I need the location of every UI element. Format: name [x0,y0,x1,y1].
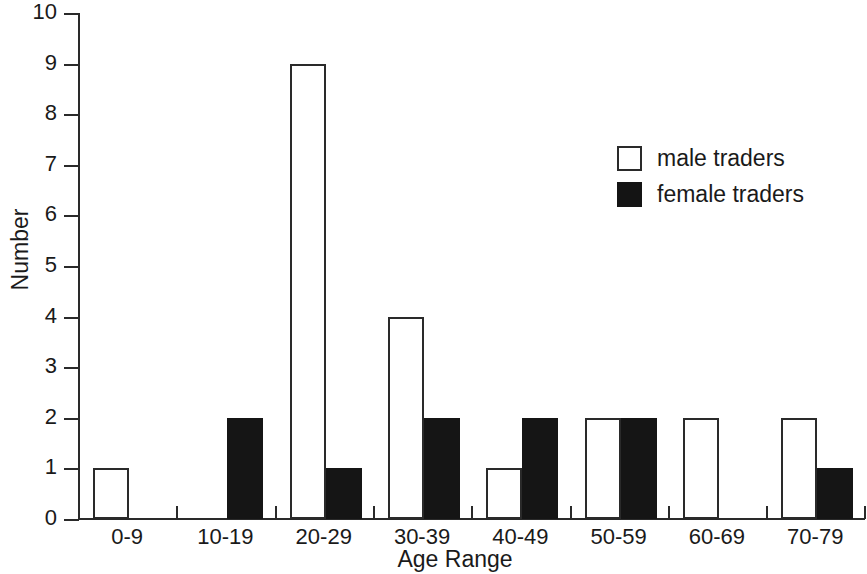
x-axis-tick-label: 0-9 [78,524,176,550]
white-square-swatch-icon [617,146,642,171]
bar [585,418,621,519]
x-axis-tick-label: 60-69 [668,524,766,550]
x-axis-tick-label: 10-19 [176,524,274,550]
black-square-swatch-icon [617,182,642,207]
x-axis-tick-label: 70-79 [766,524,864,550]
x-axis-tick-mark [176,506,178,519]
x-axis-title: Age Range [355,548,555,571]
y-axis-tick-mark [64,215,79,217]
legend-label-male-traders: male traders [657,143,785,173]
bar [522,418,558,519]
bar [388,317,424,519]
bar [486,468,522,519]
bar [290,64,326,519]
bar [93,468,129,519]
y-axis-tick-mark [64,418,79,420]
x-axis-tick-mark [668,506,670,519]
x-axis-tick-mark [275,506,277,519]
y-axis-tick: 3 [0,367,79,369]
y-axis-tick-label: 9 [13,52,57,74]
y-axis-tick: 8 [0,114,79,116]
y-axis-tick: 10 [0,13,79,15]
y-axis-tick: 7 [0,165,79,167]
y-axis-tick-mark [64,367,79,369]
y-axis-tick-label: 1 [13,456,57,478]
y-axis-tick-mark [64,114,79,116]
y-axis-tick-mark [64,317,79,319]
y-axis-tick-mark [64,519,79,521]
y-axis-tick-mark [64,468,79,470]
y-axis-tick-label: 0 [13,507,57,529]
y-axis-tick: 4 [0,317,79,319]
legend-label-female-traders: female traders [657,179,804,209]
x-axis-tick-mark [373,506,375,519]
bar [621,418,657,519]
bar [781,418,817,519]
bar [326,468,362,519]
y-axis-tick-label: 4 [13,305,57,327]
y-axis-tick-label: 7 [13,153,57,175]
x-axis-tick-label: 20-29 [275,524,373,550]
y-axis-title: Number [9,200,32,300]
x-axis-tick-mark [78,506,80,519]
y-axis-tick-label: 10 [13,1,57,23]
bar [683,418,719,519]
bar-chart: 012345678910 0-910-1920-2930-3940-4950-5… [0,0,867,574]
x-axis-tick-mark [766,506,768,519]
y-axis-tick-mark [64,165,79,167]
bar [424,418,460,519]
x-axis-tick-label: 50-59 [570,524,668,550]
bar [817,468,853,519]
y-axis-tick-mark [64,266,79,268]
x-axis-tick-mark [570,506,572,519]
bar [227,418,263,519]
y-axis-tick-mark [64,64,79,66]
y-axis-tick: 9 [0,64,79,66]
y-axis-tick-mark [64,13,79,15]
y-axis-tick-label: 8 [13,102,57,124]
y-axis-tick-label: 3 [13,355,57,377]
y-axis-tick: 0 [0,519,79,521]
y-axis-tick: 2 [0,418,79,420]
x-axis-tick-mark [471,506,473,519]
x-axis-tick-mark [864,506,866,519]
y-axis-tick: 1 [0,468,79,470]
y-axis-tick-label: 2 [13,406,57,428]
